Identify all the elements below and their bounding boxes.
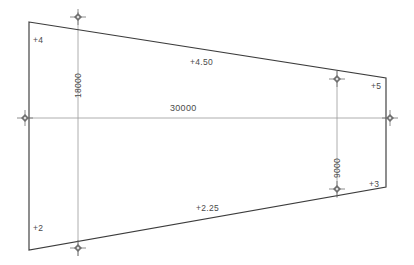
corner-label-top-right: +5 bbox=[371, 82, 381, 91]
corner-label-top-left: +4 bbox=[33, 36, 43, 45]
node-marker-left-axis bbox=[17, 110, 33, 126]
edge-label-bottom: +2.25 bbox=[196, 204, 219, 213]
survey-plot-svg bbox=[0, 0, 414, 265]
corner-label-bottom-right: +3 bbox=[369, 180, 379, 189]
dimension-label-vertical-right: 9000 bbox=[333, 158, 342, 178]
drawing-canvas: +4 +4.50 +5 30000 18000 9000 +3 +2.25 +2 bbox=[0, 0, 414, 265]
node-marker-top-dim bbox=[70, 9, 86, 25]
corner-label-bottom-left: +2 bbox=[33, 224, 43, 233]
dimension-label-vertical-left: 18000 bbox=[74, 73, 83, 98]
node-marker-right-axis bbox=[382, 110, 398, 126]
dimension-lines bbox=[22, 12, 393, 256]
edge-label-top: +4.50 bbox=[190, 58, 213, 67]
node-marker-upper-right-dim bbox=[329, 71, 345, 87]
dimension-label-horizontal: 30000 bbox=[170, 104, 197, 113]
